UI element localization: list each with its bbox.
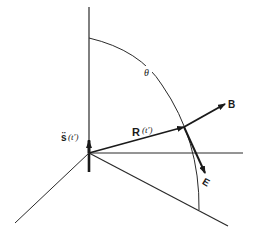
r-vector-label: R xyxy=(132,126,140,138)
acceleration-label: s̈ xyxy=(61,131,67,143)
radiation-field-diagram: θ R (t′) B E s̈ (t′) xyxy=(0,0,254,239)
b-field-arrow xyxy=(184,104,225,127)
lower-left-axis xyxy=(15,153,89,223)
lower-right-line xyxy=(89,153,228,226)
e-field-label: E xyxy=(201,176,213,189)
theta-arc xyxy=(89,38,199,210)
theta-label: θ xyxy=(144,67,149,78)
e-field-arrow xyxy=(184,127,205,173)
acceleration-argument: (t′) xyxy=(68,132,78,142)
r-vector-argument: (t′) xyxy=(142,125,152,135)
b-field-label: B xyxy=(228,99,235,110)
